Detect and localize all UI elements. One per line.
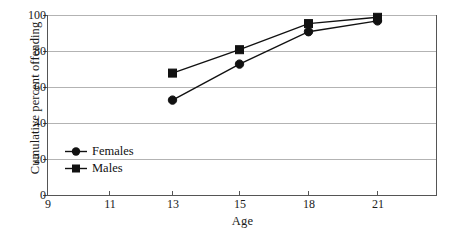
x-tick-label-18: 18 [289, 198, 329, 210]
series-males [169, 13, 382, 77]
data-point-females-18 [304, 28, 312, 36]
data-point-males-15 [236, 46, 244, 54]
x-tick-label-15: 15 [220, 198, 260, 210]
legend-item-females: Females [64, 143, 134, 160]
series-females-line [173, 21, 378, 100]
x-tick-label-9: 9 [28, 198, 68, 210]
legend-label-males: Males [88, 161, 123, 176]
chart-legend: Females Males [64, 143, 134, 177]
data-point-males-13 [169, 69, 177, 77]
chart-figure: 100 80 60 40 20 0 9 11 13 15 18 21 Cumul… [0, 0, 454, 239]
legend-square-marker-icon [64, 160, 88, 177]
data-point-females-15 [235, 60, 243, 68]
data-point-males-18 [305, 20, 313, 28]
x-axis-title: Age [47, 214, 438, 229]
x-tick-label-21: 21 [358, 198, 398, 210]
x-tick-marks [48, 191, 378, 196]
x-tick-label-11: 11 [90, 198, 130, 210]
data-point-females-13 [168, 96, 176, 104]
y-axis-title: Cumulative percent offending [24, 0, 46, 198]
legend-circle-marker-icon [64, 143, 88, 160]
legend-item-males: Males [64, 160, 134, 177]
series-females [168, 17, 381, 105]
legend-label-females: Females [88, 144, 134, 159]
data-point-females-21 [373, 17, 381, 25]
x-tick-label-13: 13 [153, 198, 193, 210]
gridlines [47, 16, 437, 160]
